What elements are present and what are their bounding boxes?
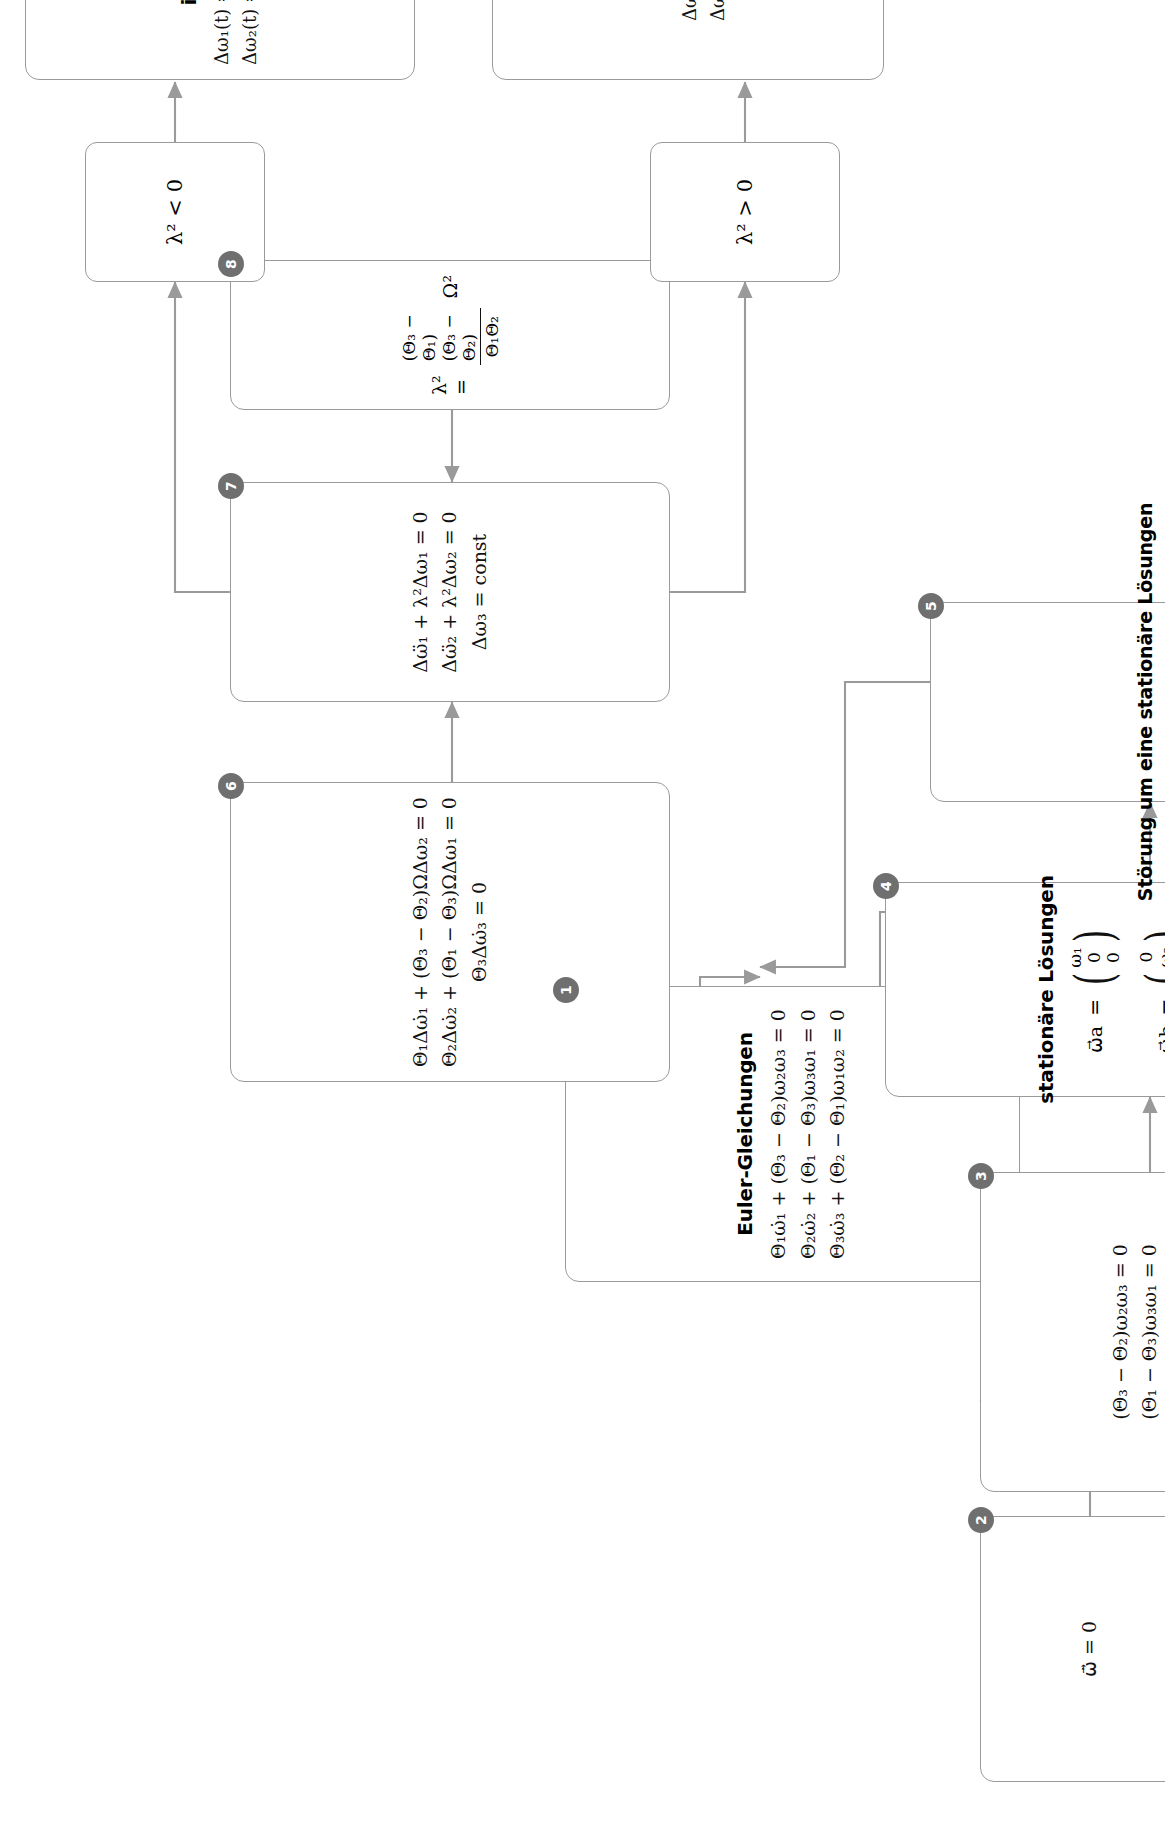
node-2[interactable]: 2 ω⃗̇ = 0 [980, 1516, 1165, 1782]
equation: Θ₂Δω̇₂ + (Θ₁ − Θ₃)ΩΔω₁ = 0 [436, 797, 464, 1067]
vector-a-entry: ω₁ [1066, 947, 1085, 968]
link-1-to-6 [700, 977, 760, 986]
node-5[interactable]: 5 Störung um eine stationäre Lösungen ω⃗… [930, 602, 1165, 802]
diagram-canvas: 2 ω⃗̇ = 0 1 Euler-Gleichungen Θ₁ω̇₁ + (Θ… [0, 0, 1165, 1842]
node-6-badge: 6 [218, 773, 244, 799]
node-7-equations: Δω̈₁ + λ²Δω₁ = 0 Δω̈₂ + λ²Δω₂ = 0 Δω₃ = … [407, 511, 494, 672]
node-3[interactable]: 3 (Θ₃ − Θ₂)ω₂ω₃ = 0 (Θ₁ − Θ₃)ω₃ω₁ = 0 (Θ… [980, 1172, 1165, 1492]
node-10-equations: Δω₁(t) = b₁ exp(−λt) + c₁ exp(λt) Δω₂(t)… [209, 0, 263, 65]
vector-a: ω⃗a = ( ω₁ 0 0 ) [1066, 926, 1123, 1053]
vector-b-entry: 0 [1137, 952, 1156, 963]
equation: Θ₁Δω̇₁ + (Θ₃ − Θ₂)ΩΔω₂ = 0 [407, 797, 435, 1067]
node-3-badge: 3 [968, 1163, 994, 1189]
node-5-title: Störung um eine stationäre Lösungen [1134, 503, 1156, 901]
node-8[interactable]: 8 λ² = (Θ₃ − Θ₁)(Θ₃ − Θ₂) Θ₁Θ₂ Ω² [230, 260, 670, 410]
node-10-title: instabile Lösung [177, 0, 201, 5]
equation: Δω̈₁ + λ²Δω₁ = 0 [407, 511, 435, 672]
equation: Δω̈₂ + λ²Δω₂ = 0 [436, 511, 464, 672]
vector-b-label: ω⃗b [1155, 1025, 1165, 1053]
node-4-vectors: ω⃗a = ( ω₁ 0 0 ) ω⃗b = ( 0 ω₂ 0 [1066, 925, 1165, 1053]
condition-lambda-gt-zero[interactable]: λ² > 0 [650, 142, 840, 282]
vector-b: ω⃗b = ( 0 ω₂ 0 ) [1137, 925, 1165, 1053]
equation: (Θ₁ − Θ₃)ω₃ω₁ = 0 [1136, 1244, 1164, 1420]
node-6[interactable]: 6 Θ₁Δω̇₁ + (Θ₃ − Θ₂)ΩΔω₂ = 0 Θ₂Δω̇₂ + (Θ… [230, 782, 670, 1082]
equation: Θ₁ω̇₁ + (Θ₃ − Θ₂)ω₂ω₃ = 0 [765, 1009, 793, 1259]
condition-label: λ² < 0 [163, 179, 187, 245]
equation: Δω₃ = const [466, 534, 494, 651]
node-7-badge: 7 [218, 473, 244, 499]
equation: ω⃗̇ = 0 [1076, 1621, 1104, 1677]
equation: Θ₂ω̇₂ + (Θ₁ − Θ₃)ω₃ω₁ = 0 [795, 1009, 823, 1259]
equation: Δω₂(t) = b₂ exp(−λt) + c₂ exp(λt) [237, 0, 263, 65]
node-4-title: stationäre Lösungen [1034, 875, 1058, 1103]
equation: Δω₁(t) = a₁ sin(λt + φ₁) [677, 0, 703, 21]
equation: Θ₃ω̇₃ + (Θ₂ − Θ₁)ω₁ω₂ = 0 [824, 1009, 852, 1259]
vector-b-entry: ω₂ [1156, 947, 1165, 968]
node-1-equations: Θ₁ω̇₁ + (Θ₃ − Θ₂)ω₂ω₃ = 0 Θ₂ω̇₂ + (Θ₁ − … [765, 1009, 852, 1259]
vector-a-entry: 0 [1085, 952, 1104, 963]
equation: Δω₂(t) = a₂ sin(λt + φ₂) [705, 0, 731, 21]
node-2-badge: 2 [968, 1507, 994, 1533]
equation: Θ₃Δω̇₃ = 0 [466, 882, 494, 982]
lambda-fraction: (Θ₃ − Θ₁)(Θ₃ − Θ₂) Θ₁Θ₂ [399, 308, 502, 365]
equation: Δω₁(t) = b₁ exp(−λt) + c₁ exp(λt) [209, 0, 235, 65]
node-8-lambda-formula: λ² = (Θ₃ − Θ₁)(Θ₃ − Θ₂) Θ₁Θ₂ Ω² [399, 275, 502, 395]
vector-a-label: ω⃗a [1084, 1026, 1106, 1053]
node-1-badge: 1 [553, 977, 579, 1003]
node-4[interactable]: 4 stationäre Lösungen ω⃗a = ( ω₁ 0 0 ) ω… [885, 882, 1165, 1097]
node-5-badge: 5 [918, 593, 944, 619]
vector-a-entry: 0 [1104, 952, 1123, 963]
node-6-equations: Θ₁Δω̇₁ + (Θ₃ − Θ₂)ΩΔω₂ = 0 Θ₂Δω̇₂ + (Θ₁ … [407, 797, 494, 1067]
node-1-title: Euler-Gleichungen [733, 1032, 757, 1235]
lambda-denominator: Θ₁Θ₂ [481, 312, 502, 362]
equation: (Θ₃ − Θ₂)ω₂ω₃ = 0 [1107, 1244, 1135, 1420]
node-3-equations: (Θ₃ − Θ₂)ω₂ω₃ = 0 (Θ₁ − Θ₃)ω₃ω₁ = 0 (Θ₂ … [1107, 1244, 1165, 1420]
node-9-card[interactable]: 9 stabile Lösung Δω₁(t) = a₁ sin(λt + φ₁… [492, 0, 884, 80]
lambda-tail: Ω² [439, 275, 461, 298]
node-7[interactable]: 7 Δω̈₁ + λ²Δω₁ = 0 Δω̈₂ + λ²Δω₂ = 0 Δω₃ … [230, 482, 670, 702]
node-10-card[interactable]: 10 instabile Lösung Δω₁(t) = b₁ exp(−λt)… [25, 0, 415, 80]
node-2-equations: ω⃗̇ = 0 [1076, 1621, 1104, 1677]
node-8-badge: 8 [218, 251, 244, 277]
lambda-lhs: λ² = [428, 375, 472, 395]
node-9-equations: Δω₁(t) = a₁ sin(λt + φ₁) Δω₂(t) = a₂ sin… [677, 0, 731, 21]
condition-label: λ² > 0 [733, 179, 757, 245]
node-4-badge: 4 [873, 873, 899, 899]
lambda-numerator: (Θ₃ − Θ₁)(Θ₃ − Θ₂) [399, 308, 481, 365]
